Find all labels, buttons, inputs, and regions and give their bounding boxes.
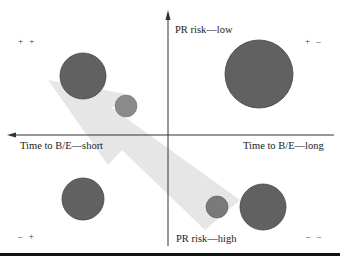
x-axis-right-label: Time to B/E—long [243,141,324,152]
quadrant-bottom-right-label: – – [306,232,323,241]
y-axis-top-label: PR risk—low [175,25,232,36]
quadrant-top-left-label: + + [18,37,36,46]
y-axis-arrowhead-icon [166,10,171,20]
x-axis-left-label: Time to B/E—short [20,141,103,152]
bubble-top-right-large [225,40,293,108]
bubble-top-left-small [115,95,137,117]
bottom-rule [0,253,340,256]
quadrant-top-right-label: + – [305,37,323,46]
bubble-bottom-left [62,178,104,220]
bubble-top-left-large [60,53,106,99]
x-axis-arrowhead-icon [7,133,16,138]
bubble-bottom-right-small [206,196,228,218]
bubble-bottom-right-large [240,184,286,230]
y-axis-bottom-label: PR risk—high [176,234,236,245]
matrix-diagram [0,0,340,262]
quadrant-bottom-left-label: – + [18,232,36,241]
